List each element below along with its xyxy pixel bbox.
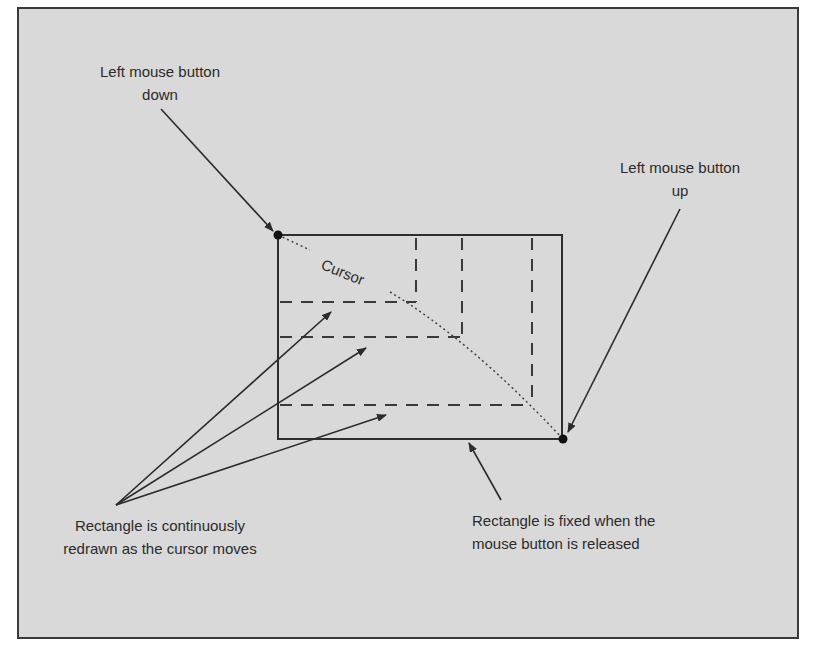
label-redrawn-line1: Rectangle is continuously	[40, 514, 280, 537]
label-button-down-line2: down	[70, 83, 250, 106]
arrow-button-down	[161, 109, 273, 231]
label-button-up: Left mouse button up	[590, 156, 770, 202]
label-continuously-redrawn: Rectangle is continuously redrawn as the…	[40, 514, 280, 560]
label-button-up-line1: Left mouse button	[590, 156, 770, 179]
label-fixed-line1: Rectangle is fixed when the	[472, 509, 712, 532]
arrow-redrawn-2	[116, 348, 366, 505]
label-button-down-line1: Left mouse button	[70, 60, 250, 83]
intermediate-rectangles	[280, 238, 532, 405]
arrow-redrawn-1	[116, 312, 331, 505]
end-point	[559, 435, 568, 444]
label-redrawn-line2: redrawn as the cursor moves	[40, 537, 280, 560]
label-button-down: Left mouse button down	[70, 60, 250, 106]
label-fixed-line2: mouse button is released	[472, 532, 712, 555]
arrow-fixed	[469, 443, 501, 500]
label-button-up-line2: up	[590, 179, 770, 202]
arrow-button-up	[568, 209, 680, 432]
label-fixed-on-release: Rectangle is fixed when the mouse button…	[472, 509, 712, 555]
arrow-redrawn-3	[116, 415, 386, 505]
start-point	[274, 231, 283, 240]
